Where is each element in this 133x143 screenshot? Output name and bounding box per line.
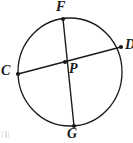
point-label-p: P [69, 62, 78, 76]
point-label-d: D [125, 38, 133, 52]
point-label-g: G [67, 127, 77, 141]
point-label-c: C [1, 64, 10, 78]
point-marker-d [119, 45, 123, 49]
point-label-f: F [56, 0, 65, 14]
point-marker-c [16, 72, 20, 76]
point-marker-f [61, 17, 65, 21]
geometry-figure: F C D G P [0, 0, 133, 143]
point-marker-p [63, 60, 67, 64]
scan-artifact-bottom-left [2, 131, 11, 138]
circle-diagram-canvas [0, 0, 133, 143]
